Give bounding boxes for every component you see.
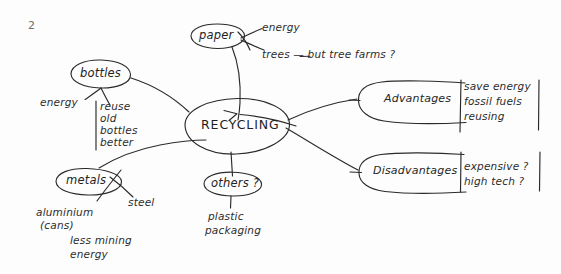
bottles-node-label: bottles — [80, 67, 121, 81]
connector-others-plastic — [231, 196, 232, 208]
handwritten-ink-layer — [0, 0, 561, 274]
connector-bottles-recycling — [131, 78, 189, 112]
advantages-detail-reusing: reusing — [464, 110, 505, 122]
disadvantages-detail-high-tech: high tech ? — [464, 175, 524, 187]
disadvantages-detail-expensive: expensive ? — [464, 160, 529, 172]
disadvantages-node-label: Disadvantages — [373, 165, 457, 178]
metals-detail-steel: steel — [128, 196, 154, 208]
bottles-detail-bottles: bottles — [100, 124, 138, 136]
others-detail-packaging: packaging — [205, 224, 261, 236]
metals-detail-cans: (cans) — [40, 219, 74, 231]
advantages-node-label: Advantages — [384, 93, 451, 106]
paper-detail-trees: trees — but tree farms ? — [262, 48, 395, 60]
metals-detail-energy: energy — [70, 248, 108, 260]
bottles-detail-better: better — [100, 136, 133, 148]
advantages-detail-fossil-fuels: fossil fuels — [464, 95, 522, 107]
page-number: 2 — [28, 20, 35, 33]
bottles-detail-reuse: reuse — [100, 100, 130, 112]
paper-detail-branches — [238, 29, 264, 51]
metals-detail-aluminium: aluminium — [36, 206, 93, 218]
bottles-detail-energy: energy — [40, 96, 78, 108]
others-detail-plastic: plastic — [208, 210, 244, 222]
connector-recycling-advantages — [288, 99, 357, 120]
bottles-detail-old: old — [100, 112, 117, 124]
metals-node-label: metals — [66, 174, 106, 188]
advantages-detail-save-energy: save energy — [464, 80, 531, 92]
center-node-label: RECYCLING — [201, 118, 280, 133]
connector-recycling-advantages-lower — [286, 128, 358, 170]
others-node-label: others ? — [211, 177, 259, 191]
metals-detail-less-mining: less mining — [70, 234, 132, 246]
mind-map-canvas: 2 RECYCLING paper energy trees — but tre… — [0, 0, 561, 274]
paper-detail-energy: energy — [262, 21, 300, 33]
paper-node-label: paper — [199, 29, 233, 43]
